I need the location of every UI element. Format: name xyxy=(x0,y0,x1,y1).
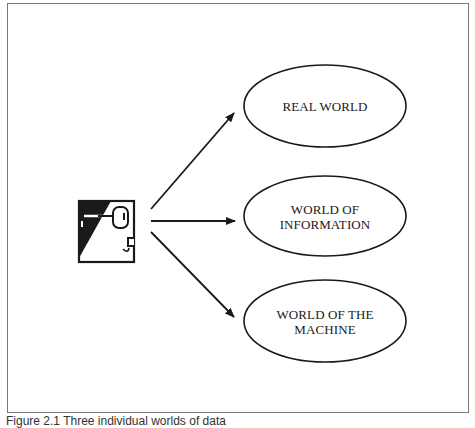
arrow-to-world-of-the-machine xyxy=(151,232,234,317)
arrow-to-real-world xyxy=(151,113,234,209)
world-label-line1: WORLD OF THE xyxy=(250,307,400,322)
world-label-line1: REAL WORLD xyxy=(250,99,400,114)
figure-caption: Figure 2.1 Three individual worlds of da… xyxy=(6,414,226,428)
world-label-line1: WORLD OF xyxy=(250,202,400,217)
world-label-real: REAL WORLD xyxy=(250,99,400,114)
world-label-line2: MACHINE xyxy=(250,322,400,337)
world-label-machine: WORLD OF THE MACHINE xyxy=(250,307,400,337)
world-label-information: WORLD OF INFORMATION xyxy=(250,202,400,232)
world-label-line2: INFORMATION xyxy=(250,217,400,232)
person-with-glasses-icon xyxy=(79,201,134,262)
